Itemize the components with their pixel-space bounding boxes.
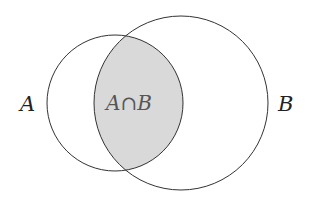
label-a: A xyxy=(18,92,35,116)
label-b: B xyxy=(277,92,293,116)
venn-svg: A A∩B B xyxy=(0,0,310,203)
label-intersection: A∩B xyxy=(104,91,152,115)
venn-diagram: A A∩B B xyxy=(0,0,310,203)
